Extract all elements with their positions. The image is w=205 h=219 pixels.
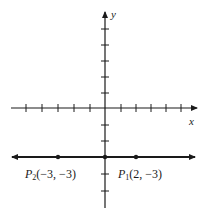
point-p1: P1(2, −3) (117, 155, 162, 182)
point-p2-dot (56, 155, 60, 159)
horizontal-line-y-minus-3 (12, 155, 195, 159)
point-p2: P2(−3, −3) (24, 155, 76, 182)
coordinate-plane: x y P2(−3, −3) P1(2, −3) (0, 0, 205, 219)
x-axis-label: x (188, 115, 194, 127)
point-p1-label: P1(2, −3) (117, 167, 162, 182)
y-intercept-point (103, 155, 107, 159)
y-axis-label: y (110, 8, 116, 20)
point-p2-label: P2(−3, −3) (24, 167, 76, 182)
x-axis: x (11, 104, 197, 127)
point-p1-dot (134, 155, 138, 159)
